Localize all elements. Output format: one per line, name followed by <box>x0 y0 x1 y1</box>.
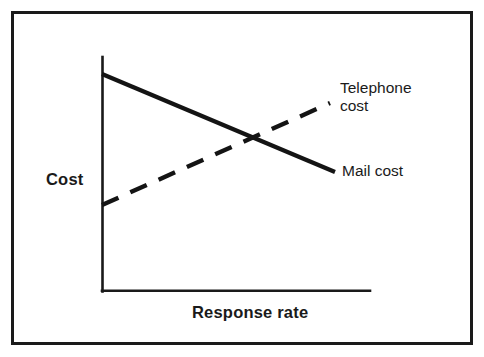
series-label-telephone-cost: Telephone cost <box>340 79 412 116</box>
x-axis-title: Response rate <box>192 303 308 322</box>
chart-figure: Cost Response rate Telephone cost Mail c… <box>0 0 484 357</box>
series-line-mail-cost <box>102 74 335 172</box>
y-axis-title: Cost <box>46 170 83 189</box>
series-label-telephone-cost-line2: cost <box>340 97 412 115</box>
series-label-telephone-cost-line1: Telephone <box>340 79 412 96</box>
series-label-mail-cost: Mail cost <box>342 162 403 180</box>
